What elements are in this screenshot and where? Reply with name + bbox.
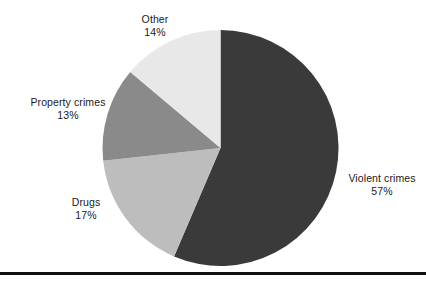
pie-chart-figure: Other 14% Property crimes 13% Drugs 17% … xyxy=(0,0,426,284)
pie-label-property-crimes: Property crimes 13% xyxy=(12,96,124,122)
pie-label-violent-crimes-value: 57% xyxy=(336,185,426,198)
pie-label-other-name: Other xyxy=(105,13,205,26)
pie-label-other: Other 14% xyxy=(105,13,205,39)
pie-label-drugs-value: 17% xyxy=(48,209,124,222)
pie-label-other-value: 14% xyxy=(105,26,205,39)
pie-label-drugs-name: Drugs xyxy=(48,196,124,209)
pie-label-drugs: Drugs 17% xyxy=(48,196,124,222)
pie-label-property-crimes-value: 13% xyxy=(12,109,124,122)
pie-chart-graphic xyxy=(0,0,426,284)
pie-label-property-crimes-name: Property crimes xyxy=(12,96,124,109)
pie-label-violent-crimes: Violent crimes 57% xyxy=(336,172,426,198)
pie-label-violent-crimes-name: Violent crimes xyxy=(336,172,426,185)
bottom-divider-rule xyxy=(0,272,426,275)
